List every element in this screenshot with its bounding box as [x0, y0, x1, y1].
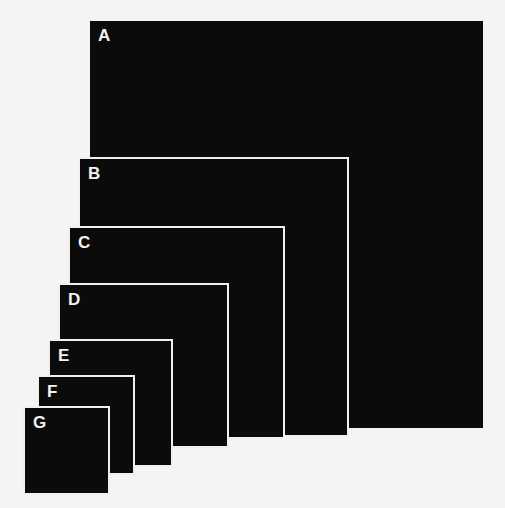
square-label-f: F	[47, 383, 57, 400]
square-label-d: D	[68, 291, 80, 308]
square-label-e: E	[58, 347, 69, 364]
square-label-a: A	[98, 27, 110, 44]
square-label-c: C	[78, 234, 90, 251]
square-label-b: B	[88, 165, 100, 182]
square-g: G	[25, 408, 108, 493]
square-label-g: G	[33, 414, 46, 431]
